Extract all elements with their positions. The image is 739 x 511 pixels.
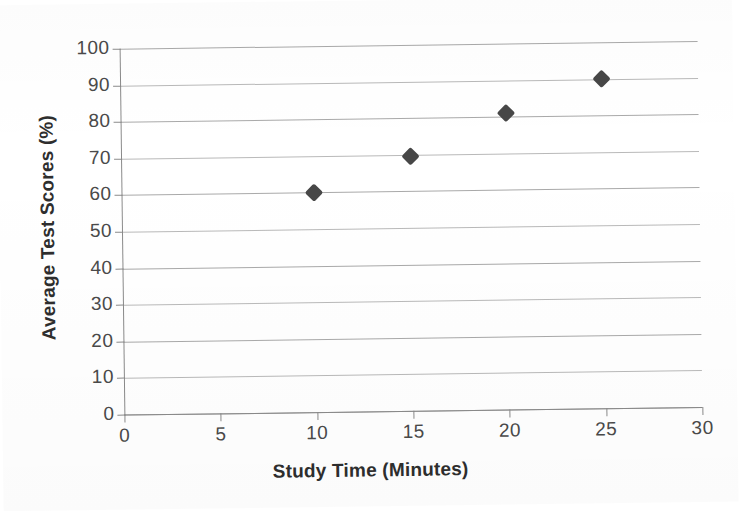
y-tick-label-30: 30 [67, 293, 113, 316]
y-axis-ticks [0, 0, 732, 5]
x-tick-20 [510, 410, 511, 418]
x-tick-label-15: 15 [389, 421, 439, 444]
y-tick-label-20: 20 [67, 330, 113, 353]
y-tick-60 [115, 195, 123, 196]
y-tick-10 [117, 378, 125, 379]
x-tick-label-0: 0 [100, 424, 150, 447]
y-tick-20 [116, 341, 124, 342]
y-tick-label-60: 60 [65, 183, 111, 206]
y-tick-40 [115, 268, 123, 269]
data-point-1 [401, 147, 419, 165]
data-point-2 [497, 104, 515, 122]
y-axis-title: Average Test Scores (%) [35, 97, 60, 357]
gridline-y-10 [124, 370, 702, 379]
x-tick-label-20: 20 [485, 419, 535, 442]
x-tick-label-25: 25 [581, 418, 631, 441]
y-tick-100 [113, 49, 121, 50]
y-tick-70 [114, 158, 122, 159]
y-tick-label-40: 40 [66, 256, 112, 279]
y-tick-label-50: 50 [66, 220, 112, 243]
plot-area [120, 41, 703, 415]
x-axis-ticks [0, 0, 732, 5]
data-point-0 [305, 183, 323, 201]
y-tick-label-70: 70 [65, 147, 111, 170]
scatter-chart-figure: 0102030405060708090100 051015202530 Stud… [0, 0, 739, 511]
x-tick-label-10: 10 [292, 422, 342, 445]
y-tick-label-100: 100 [63, 37, 109, 60]
gridline-y-30 [123, 297, 701, 306]
y-tick-label-90: 90 [64, 73, 110, 96]
gridline-y-90 [120, 78, 698, 87]
gridline-y-40 [122, 261, 700, 270]
y-tick-30 [116, 305, 124, 306]
x-tick-5 [221, 413, 222, 421]
gridline-y-20 [123, 334, 701, 343]
x-tick-15 [413, 411, 414, 419]
x-tick-0 [124, 415, 125, 423]
x-tick-30 [702, 407, 703, 415]
gridline-y-80 [121, 114, 699, 123]
gridline-y-60 [122, 187, 700, 196]
y-tick-90 [113, 85, 121, 86]
gridline-y-50 [122, 224, 700, 233]
y-tick-50 [115, 232, 123, 233]
x-tick-label-5: 5 [196, 423, 246, 446]
x-tick-10 [317, 412, 318, 420]
y-tick-label-0: 0 [68, 403, 114, 426]
gridline-y-100 [120, 41, 698, 50]
x-tick-label-30: 30 [677, 417, 727, 440]
gridlines-group [120, 41, 698, 49]
x-axis-tick-labels: 051015202530 [0, 0, 732, 5]
y-tick-80 [114, 122, 122, 123]
data-point-3 [593, 70, 611, 88]
x-tick-25 [606, 408, 607, 416]
y-tick-label-10: 10 [68, 366, 114, 389]
y-tick-label-80: 80 [64, 110, 110, 133]
